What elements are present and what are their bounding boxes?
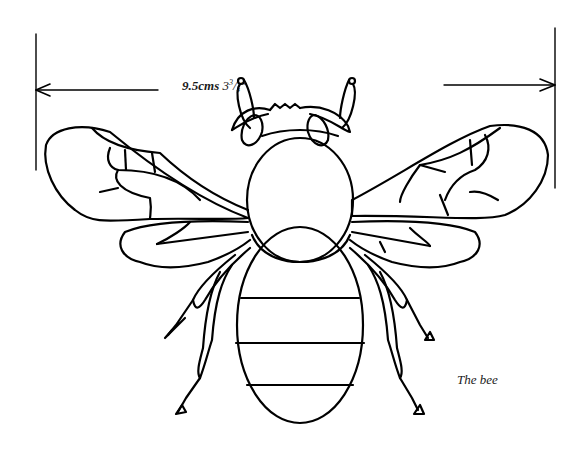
bee-line-drawing — [0, 0, 587, 454]
bee-abdomen — [236, 227, 364, 423]
left-forewing — [45, 127, 248, 221]
figure-caption: The bee — [457, 372, 498, 388]
left-hindwing — [120, 221, 250, 267]
right-hindwing — [350, 221, 480, 267]
measurement-label: 9.5cms 33/4″ — [182, 78, 246, 94]
bee-thorax — [247, 130, 353, 262]
dimension-marker — [36, 28, 555, 188]
right-forewing — [352, 125, 548, 218]
measurement-imperial: 33/4″ — [222, 78, 245, 93]
measurement-metric: 9.5cms — [182, 78, 219, 93]
